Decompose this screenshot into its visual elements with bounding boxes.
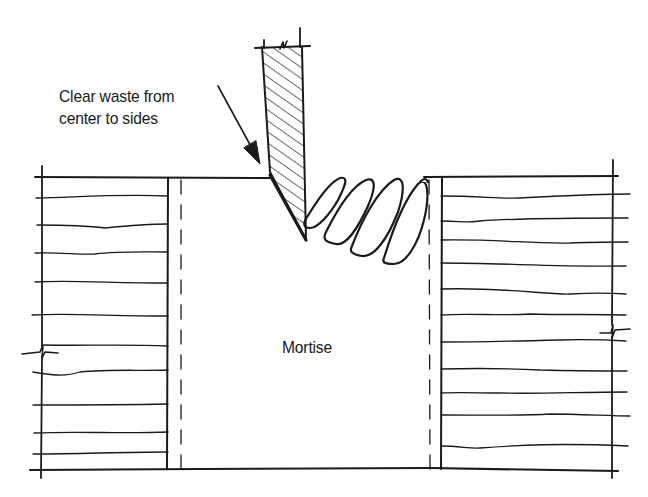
callout-line-1: Clear waste from xyxy=(59,86,174,108)
bottom-line xyxy=(30,468,618,471)
mortise-right-wall xyxy=(429,177,442,469)
chisel xyxy=(255,28,310,240)
left-stock-grain xyxy=(32,195,168,454)
mortise-left-wall xyxy=(167,178,181,469)
callout-label: Clear waste from center to sides xyxy=(59,86,174,130)
top-surface-line xyxy=(35,176,618,178)
left-break-edge xyxy=(22,166,58,478)
callout-line-2: center to sides xyxy=(59,108,174,130)
callout-arrow xyxy=(218,86,260,164)
right-break-edge xyxy=(600,160,630,478)
right-stock-grain xyxy=(441,194,630,448)
mortise-label: Mortise xyxy=(282,337,332,359)
waste-chips xyxy=(304,178,428,264)
mortise-diagram xyxy=(0,0,648,497)
